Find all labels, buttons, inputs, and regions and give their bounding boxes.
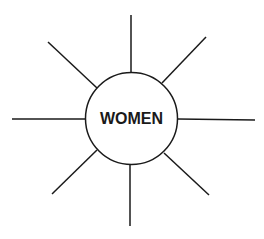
center-label: WOMEN [100,110,163,127]
spoke-top-right [162,37,206,83]
spoke-top-left [48,42,97,88]
spoke-bottom-right [164,153,209,195]
spoke-right [178,119,255,120]
spider-diagram: WOMEN [0,0,264,239]
spoke-bottom-left [52,150,97,194]
